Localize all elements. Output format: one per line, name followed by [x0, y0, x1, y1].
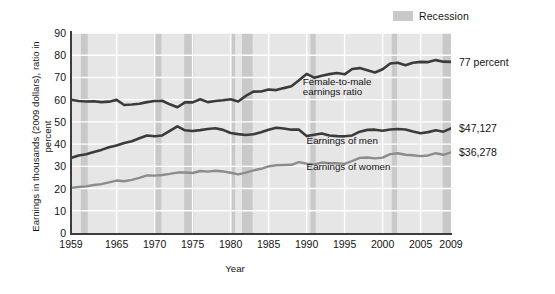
y-tick-label: 40 [42, 139, 66, 149]
end-label-men: $47,127 [459, 122, 497, 134]
y-axis-line [70, 31, 72, 235]
annotation-women: Earnings of women [307, 161, 391, 173]
x-tick-label: 1975 [181, 238, 204, 250]
x-tick-label: 1970 [143, 238, 166, 250]
y-tick-label: 0 [42, 228, 66, 238]
end-label-ratio: 77 percent [459, 56, 509, 68]
x-tick-label: 1990 [295, 238, 318, 250]
recession-band [81, 33, 88, 233]
chart-figure: Recession Earnings in thousands (2009 do… [0, 0, 555, 294]
x-axis-line [70, 233, 452, 235]
y-tick-label: 60 [42, 95, 66, 105]
x-tick-label: 1995 [333, 238, 356, 250]
x-axis-title: Year [0, 263, 470, 274]
y-tick-label: 10 [42, 206, 66, 216]
recession-band [310, 33, 315, 233]
y-tick-label: 20 [42, 184, 66, 194]
x-tick-label: 1980 [219, 238, 242, 250]
y-tick-label: 70 [42, 72, 66, 82]
y-tick-label: 50 [42, 117, 66, 127]
legend: Recession [393, 10, 469, 22]
y-tick-label: 30 [42, 161, 66, 171]
x-tick-label: 1959 [59, 238, 82, 250]
annotation-ratio-line2: earnings ratio [303, 86, 362, 98]
plot-svg [71, 33, 451, 233]
recession-swatch-icon [393, 11, 413, 21]
x-tick-label: 2005 [409, 238, 432, 250]
x-tick-label: 2009 [439, 238, 462, 250]
end-label-women: $36,278 [459, 146, 497, 158]
y-tick-label: 90 [42, 28, 66, 38]
legend-label-recession: Recession [419, 10, 469, 22]
x-tick-label: 1965 [105, 238, 128, 250]
x-tick-label: 1985 [257, 238, 280, 250]
recession-band [242, 33, 253, 233]
x-tick-label: 2000 [371, 238, 394, 250]
y-tick-label: 80 [42, 50, 66, 60]
plot-area [71, 33, 451, 233]
annotation-men: Earnings of men [307, 135, 378, 147]
